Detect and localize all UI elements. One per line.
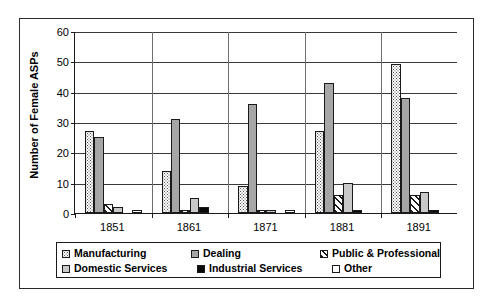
bar-group	[75, 32, 152, 213]
bar	[257, 210, 266, 213]
legend-swatch-icon	[197, 265, 205, 273]
legend-item: Industrial Services	[197, 261, 332, 276]
bar	[180, 210, 189, 213]
bar	[85, 131, 94, 213]
y-axis-tick-label: 10	[57, 178, 69, 189]
plot-area: 0102030405060	[74, 32, 457, 214]
x-axis-tick-label: 1881	[304, 221, 381, 233]
legend-swatch-icon	[62, 265, 70, 273]
x-axis-tick-mark	[305, 213, 306, 218]
y-axis-tick-label: 30	[57, 118, 69, 129]
bar-group	[381, 32, 458, 213]
bar-group	[228, 32, 305, 213]
y-axis-tick-label: 0	[63, 209, 69, 220]
bar	[199, 207, 208, 213]
bar	[171, 119, 180, 213]
bar	[190, 198, 199, 213]
x-axis-tick-label: 1871	[227, 221, 304, 233]
y-axis-title: Number of Female ASPs	[28, 15, 40, 215]
bar	[410, 195, 419, 213]
legend-item: Manufacturing	[62, 246, 191, 261]
legend-swatch-icon	[191, 250, 199, 258]
legend-label: Manufacturing	[74, 248, 146, 259]
legend-item: Dealing	[191, 246, 320, 261]
y-axis-tick-label: 60	[57, 27, 69, 38]
y-axis-tick-label: 50	[57, 57, 69, 68]
bar-group	[305, 32, 382, 213]
legend-swatch-icon	[332, 265, 340, 273]
legend-item: Public & Professional	[320, 246, 440, 261]
legend-swatch-icon	[62, 250, 70, 258]
bar	[162, 171, 171, 213]
x-axis-tick-mark	[228, 213, 229, 218]
bar	[113, 207, 122, 213]
y-axis-tick-label: 20	[57, 148, 69, 159]
x-axis-tick-mark	[381, 213, 382, 218]
legend-item: Domestic Services	[62, 261, 197, 276]
x-axis-tick-mark	[75, 213, 76, 218]
bar	[343, 183, 352, 213]
bar	[420, 192, 429, 213]
bar	[248, 104, 257, 213]
y-axis-tick-label: 40	[57, 87, 69, 98]
bar	[401, 98, 410, 213]
x-axis-tick-label: 1851	[74, 221, 151, 233]
bar	[94, 137, 103, 213]
x-axis-tick-mark	[152, 213, 153, 218]
legend-item: Other	[332, 261, 372, 276]
x-axis-tick-label: 1861	[151, 221, 228, 233]
legend-label: Other	[344, 263, 372, 274]
bar	[315, 131, 324, 213]
x-axis-tick-label: 1891	[380, 221, 457, 233]
legend-swatch-icon	[320, 250, 328, 258]
bar	[104, 204, 113, 213]
chart-frame: Number of Female ASPs 0102030405060 1851…	[19, 18, 474, 289]
bar	[132, 210, 141, 213]
chart-legend: ManufacturingDealingPublic & Professiona…	[56, 242, 441, 278]
plot-area-wrapper: Number of Female ASPs 0102030405060 1851…	[20, 19, 475, 237]
legend-row: Domestic ServicesIndustrial ServicesOthe…	[62, 261, 440, 276]
bar	[391, 64, 400, 213]
bar	[285, 210, 294, 213]
legend-label: Dealing	[203, 248, 241, 259]
legend-row: ManufacturingDealingPublic & Professiona…	[62, 246, 440, 261]
bar-group	[152, 32, 229, 213]
legend-label: Domestic Services	[74, 263, 167, 274]
legend-label: Industrial Services	[209, 263, 302, 274]
bar	[334, 195, 343, 213]
legend-label: Public & Professional	[332, 248, 440, 259]
bar	[238, 186, 247, 213]
bar	[324, 83, 333, 213]
bar	[429, 210, 438, 213]
bar	[266, 210, 275, 213]
bar	[353, 210, 362, 213]
